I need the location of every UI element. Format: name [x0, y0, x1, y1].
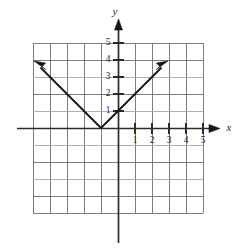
x-axis-tick-label: 2 — [150, 135, 155, 145]
y-axis-tick-label: 1 — [106, 105, 111, 115]
x-axis-tick-label: 5 — [201, 135, 206, 145]
x-axis-tick-labels: 1 2 3 4 5 — [133, 135, 206, 145]
x-axis-tick-label: 4 — [184, 135, 189, 145]
y-axis-tick-label: 5 — [106, 37, 111, 47]
y-axis-label: y — [112, 5, 118, 17]
graph-figure: 1 2 3 4 5 1 2 3 4 5 x y — [0, 0, 238, 249]
y-axis-tick-label: 3 — [106, 71, 111, 81]
x-axis-tick-label: 1 — [133, 135, 138, 145]
x-axis-arrow-icon — [209, 125, 220, 133]
y-axis-arrow-icon — [115, 19, 123, 30]
axis-ticks — [113, 43, 203, 134]
coordinate-plane-svg: 1 2 3 4 5 1 2 3 4 5 x y — [0, 0, 238, 249]
x-axis-label: x — [226, 121, 232, 133]
x-axis-tick-label: 3 — [167, 135, 172, 145]
graph-right-arrow-icon — [156, 61, 168, 70]
y-axis-tick-label: 4 — [106, 54, 111, 64]
y-axis-tick-label: 2 — [106, 88, 111, 98]
axis-lines — [17, 19, 220, 243]
graph-left-arrow-icon — [34, 61, 46, 70]
y-axis-tick-labels: 1 2 3 4 5 — [106, 37, 111, 115]
